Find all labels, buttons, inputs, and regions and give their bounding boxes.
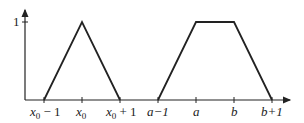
y-tick-label-1: 1 xyxy=(13,14,20,29)
x-label-x0-minus-1: x0 − 1 xyxy=(29,104,61,121)
x-label-b-plus-1: b+1 xyxy=(261,104,283,119)
triangle-membership xyxy=(44,22,120,100)
x-label-x0: x0 xyxy=(75,104,87,121)
x-label-x0-plus-1: x0 + 1 xyxy=(105,104,137,121)
x-label-a: a xyxy=(193,104,200,119)
membership-function-diagram: 1 x0 − 1 x0 x0 + 1 a−1 a b b+1 xyxy=(0,0,304,123)
x-label-a-minus-1: a−1 xyxy=(147,104,169,119)
x-label-b: b xyxy=(231,104,238,119)
trapezoid-membership xyxy=(158,22,272,100)
